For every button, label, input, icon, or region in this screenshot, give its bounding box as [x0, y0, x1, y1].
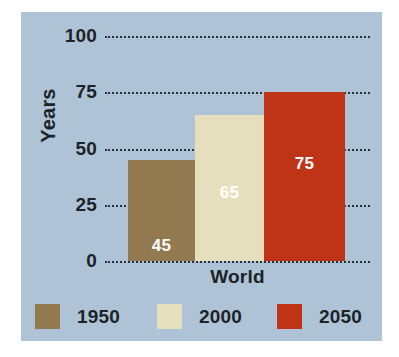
bar-value-2050: 75	[295, 154, 315, 174]
legend-swatch-1950	[35, 304, 60, 329]
legend-swatch-2050	[277, 304, 302, 329]
y-tick-label-0: 0	[86, 250, 97, 272]
legend-label-2050: 2050	[319, 306, 362, 328]
legend-item-1950[interactable]: 1950	[35, 304, 157, 329]
legend-label-1950: 1950	[77, 306, 120, 328]
legend-item-2000[interactable]: 2000	[157, 304, 277, 329]
bar-group-world: 45 65 75	[128, 36, 345, 261]
plot-area: 45 65 75	[105, 36, 370, 261]
x-axis-title: World	[105, 266, 370, 288]
legend-label-2000: 2000	[199, 306, 242, 328]
bar-chart-figure: Years 100 75 50 25 0 45 65 75 World	[21, 12, 382, 341]
bar-value-2000: 65	[220, 183, 240, 203]
y-axis-tick-labels: 100 75 50 25 0	[31, 36, 97, 261]
y-tick-label-100: 100	[65, 25, 97, 47]
bar-2000[interactable]: 65	[195, 115, 264, 261]
gridline-0	[105, 261, 370, 263]
y-tick-label-50: 50	[75, 138, 97, 160]
bar-2050[interactable]: 75	[264, 92, 345, 261]
y-tick-label-25: 25	[75, 194, 97, 216]
y-tick-label-75: 75	[75, 81, 97, 103]
chart-legend: 1950 2000 2050	[35, 304, 371, 329]
bar-1950[interactable]: 45	[128, 160, 195, 261]
bar-value-1950: 45	[152, 236, 172, 256]
legend-item-2050[interactable]: 2050	[277, 304, 371, 329]
legend-swatch-2000	[157, 304, 182, 329]
